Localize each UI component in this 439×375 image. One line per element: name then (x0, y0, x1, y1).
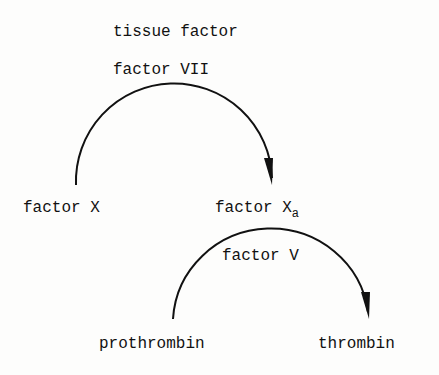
factor-xa-base: factor X (215, 199, 292, 217)
arrows-layer (0, 0, 439, 375)
label-tissue-factor: tissue factor (113, 24, 238, 40)
arrowhead-factor-xa (264, 158, 273, 185)
label-factor-vii: factor VII (113, 62, 209, 78)
arrow-factor-x-to-xa (76, 83, 272, 185)
coagulation-diagram: tissue factor factor VII factor X factor… (0, 0, 439, 375)
arrowhead-thrombin (361, 292, 370, 319)
label-factor-v: factor V (222, 248, 299, 264)
arrow-prothrombin-to-thrombin (173, 229, 368, 319)
label-thrombin: thrombin (318, 336, 395, 352)
label-factor-x: factor X (23, 200, 100, 216)
label-prothrombin: prothrombin (99, 336, 205, 352)
factor-xa-subscript: a (292, 207, 299, 221)
label-factor-xa: factor Xa (215, 200, 299, 220)
